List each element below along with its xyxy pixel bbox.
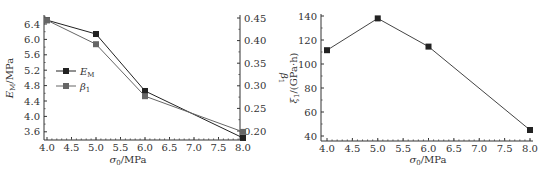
data-point-marker (324, 47, 330, 53)
y-tick-label: 120 (298, 35, 317, 46)
data-point-marker (142, 93, 148, 99)
legend: EMβ1 (56, 66, 94, 94)
x-tick-label: 6.5 (446, 143, 462, 154)
x-tick-label: 7.5 (497, 143, 513, 154)
series-line-em (47, 20, 243, 138)
legend-marker (63, 83, 69, 89)
series-line-xi1 (327, 18, 530, 130)
data-point-marker (240, 135, 246, 141)
data-point-marker (240, 129, 246, 135)
x-tick-label: 7.0 (471, 143, 487, 154)
legend-label: EM (79, 66, 94, 79)
data-point-marker (426, 44, 432, 50)
x-tick-label: 5.5 (113, 142, 129, 153)
data-point-marker (93, 41, 99, 47)
right-chart-series (324, 15, 533, 133)
data-point-marker (142, 88, 148, 94)
x-tick-label: 6.0 (137, 142, 153, 153)
y-tick-label: 6.0 (24, 34, 40, 45)
legend-label: β1 (79, 81, 90, 94)
chart-em-beta: 4.04.55.05.56.06.57.07.58.03.64.04.44.85… (0, 0, 547, 180)
x-tick-label: 4.5 (344, 143, 360, 154)
x-tick-label: 5.0 (88, 142, 104, 153)
y-tick-label: 4.8 (24, 80, 40, 91)
y-tick-label: 4.0 (24, 111, 40, 122)
left-x-axis-label: σ0/MPa (109, 154, 146, 167)
x-tick-label: 7.5 (211, 142, 227, 153)
x-tick-label: 4.5 (64, 142, 80, 153)
x-tick-label: 4.0 (319, 143, 335, 154)
y-tick-label: 4.4 (24, 96, 40, 107)
x-tick-label: 8.0 (235, 142, 251, 153)
data-point-marker (93, 31, 99, 37)
y2-tick-label: 0.30 (244, 80, 266, 91)
x-tick-label: 7.0 (186, 142, 202, 153)
left-chart-axes (44, 15, 240, 140)
x-tick-label: 8.0 (522, 143, 538, 154)
y-tick-label: 5.2 (24, 65, 40, 76)
right-chart-axes (321, 14, 533, 141)
data-point-marker (44, 17, 50, 23)
x-tick-label: 5.0 (370, 143, 386, 154)
y-tick-label: 100 (298, 59, 317, 70)
y-tick-label: 40 (304, 131, 317, 142)
x-tick-label: 6.5 (162, 142, 178, 153)
left-y-axis-label: EM/MPa (4, 58, 17, 99)
x-tick-label: 5.5 (395, 143, 411, 154)
y-tick-label: 140 (298, 11, 317, 22)
x-tick-label: 6.0 (421, 143, 437, 154)
y2-tick-label: 0.45 (244, 13, 266, 24)
data-point-marker (375, 15, 381, 21)
right-x-axis-label: σ0/MPa (409, 154, 446, 167)
y-tick-label: 5.6 (24, 49, 40, 60)
y-tick-label: 6.4 (24, 19, 40, 30)
x-tick-label: 4.0 (39, 142, 55, 153)
y2-tick-label: 0.20 (244, 126, 266, 137)
y-tick-label: 60 (304, 107, 317, 118)
y2-tick-label: 0.25 (244, 103, 266, 114)
right-chart-ticks: 4.04.55.05.56.06.57.07.58.04060801001201… (298, 11, 538, 155)
y2-tick-label: 0.35 (244, 58, 266, 69)
legend-marker (63, 68, 69, 74)
y2-tick-label: 0.40 (244, 35, 266, 46)
series-line-beta1 (47, 20, 243, 132)
left-chart-series (44, 17, 246, 141)
y-tick-label: 80 (304, 83, 317, 94)
data-point-marker (527, 127, 533, 133)
y-tick-label: 3.6 (24, 126, 40, 137)
